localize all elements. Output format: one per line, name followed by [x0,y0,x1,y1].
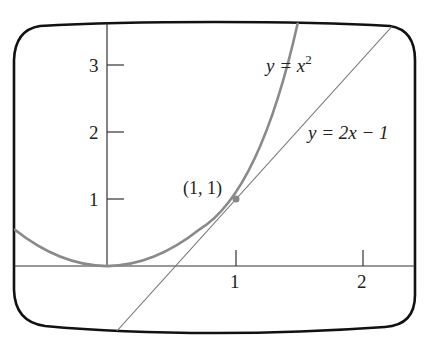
x-tick-label-2: 2 [357,271,367,292]
tangent-point [233,196,240,203]
parabola-label: y = x2 [264,52,312,76]
y-tick-label-3: 3 [89,55,99,76]
parabola-curve [14,22,298,266]
y-tick-label-1: 1 [89,189,99,210]
x-tick-label-1: 1 [230,271,240,292]
tangent-label: y = 2x − 1 [306,122,389,143]
point-label: (1, 1) [183,178,222,199]
y-tick-label-2: 2 [89,122,99,143]
tangent-line [115,22,396,333]
tangent-line-diagram: 3 2 1 1 2 (1, 1) y = x2 y = 2x − 1 [0,0,431,353]
